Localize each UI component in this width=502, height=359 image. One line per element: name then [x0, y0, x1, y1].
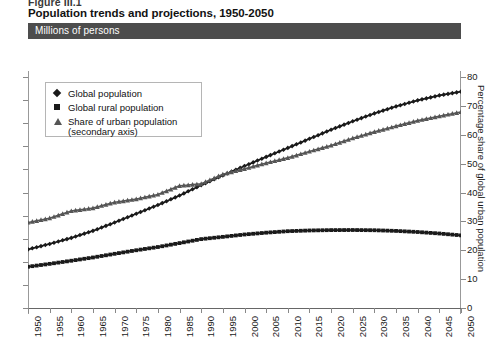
- x-axis-tick-label: 1985: [184, 316, 195, 337]
- x-axis-tick-mark: [180, 308, 181, 313]
- x-axis-tick-label: 2010: [292, 316, 303, 337]
- y-axis-right-tick-mark: [461, 135, 466, 136]
- data-point-marker: [433, 94, 438, 99]
- x-axis-tick-mark: [201, 308, 202, 313]
- data-point-marker: [342, 122, 347, 127]
- x-axis-tick-mark: [136, 308, 137, 313]
- data-point-marker: [260, 231, 264, 235]
- y-axis-right-title: Percentage share of global urban populat…: [476, 85, 487, 305]
- data-point-marker: [87, 256, 91, 260]
- data-point-marker: [329, 228, 333, 232]
- data-point-marker: [264, 155, 269, 160]
- x-axis-tick-mark: [331, 308, 332, 313]
- x-axis-tick-label: 2015: [313, 316, 324, 337]
- data-point-marker: [299, 229, 303, 233]
- data-point-marker: [86, 230, 91, 235]
- x-axis-tick-label: 1950: [32, 316, 43, 337]
- x-axis-tick-label: 1980: [162, 316, 173, 337]
- data-point-marker: [312, 229, 316, 233]
- y-axis-right-tick-mark: [461, 77, 466, 78]
- data-point-marker: [437, 232, 441, 236]
- x-axis-tick-mark: [115, 308, 116, 313]
- data-point-marker: [429, 231, 433, 235]
- data-point-marker: [273, 230, 277, 234]
- data-point-marker: [139, 248, 143, 252]
- data-point-marker: [337, 124, 342, 129]
- x-axis-tick-label: 2020: [335, 316, 346, 337]
- legend-label: Global population: [68, 88, 142, 99]
- data-point-marker: [346, 121, 351, 126]
- y-axis-right-tick-mark: [461, 106, 466, 107]
- y-axis-right-tick-mark: [461, 250, 466, 251]
- data-point-marker: [35, 264, 39, 268]
- data-point-marker: [364, 228, 368, 232]
- series-markers: [28, 228, 461, 269]
- x-axis-tick-mark: [461, 308, 462, 313]
- data-point-marker: [350, 119, 355, 124]
- data-point-marker: [126, 250, 130, 254]
- data-point-marker: [368, 113, 373, 118]
- data-point-marker: [39, 244, 44, 249]
- data-point-marker: [455, 233, 459, 237]
- data-point-marker: [394, 229, 398, 233]
- data-point-marker: [281, 147, 286, 152]
- data-point-marker: [52, 240, 57, 245]
- data-point-marker: [60, 238, 65, 243]
- x-axis-tick-mark: [28, 308, 29, 313]
- data-point-marker: [376, 110, 381, 115]
- data-point-marker: [390, 229, 394, 233]
- data-point-marker: [130, 213, 135, 218]
- data-point-marker: [234, 234, 238, 238]
- data-point-marker: [402, 102, 407, 107]
- data-point-marker: [212, 236, 216, 240]
- data-point-marker: [333, 126, 338, 131]
- data-point-marker: [295, 229, 299, 233]
- data-point-marker: [433, 231, 437, 235]
- data-point-marker: [273, 151, 278, 156]
- data-point-marker: [74, 258, 78, 262]
- data-point-marker: [441, 92, 446, 97]
- data-point-marker: [28, 247, 30, 252]
- data-point-marker: [199, 237, 203, 241]
- data-point-marker: [277, 149, 282, 154]
- data-point-marker: [329, 127, 334, 132]
- data-point-marker: [173, 242, 177, 246]
- triangle-marker-icon: [54, 118, 62, 125]
- data-point-marker: [450, 91, 455, 96]
- data-point-marker: [43, 243, 48, 248]
- data-point-marker: [268, 153, 273, 158]
- x-axis-tick-mark: [245, 308, 246, 313]
- data-point-marker: [403, 229, 407, 233]
- data-point-marker: [56, 261, 60, 265]
- x-axis-tick-label: 2030: [378, 316, 389, 337]
- data-point-marker: [416, 230, 420, 234]
- data-point-marker: [230, 234, 234, 238]
- data-point-marker: [282, 230, 286, 234]
- chart-legend: Global population Global rural populatio…: [45, 82, 202, 137]
- data-point-marker: [117, 218, 122, 223]
- data-point-marker: [134, 248, 138, 252]
- data-point-marker: [298, 140, 303, 145]
- data-point-marker: [286, 146, 291, 151]
- x-axis-tick-label: 1960: [75, 316, 86, 337]
- data-point-marker: [420, 97, 425, 102]
- data-point-marker: [95, 255, 99, 259]
- x-axis-tick-mark: [71, 308, 72, 313]
- data-point-marker: [112, 220, 117, 225]
- data-point-marker: [191, 239, 195, 243]
- data-point-marker: [277, 230, 281, 234]
- data-point-marker: [359, 116, 364, 121]
- data-point-marker: [47, 242, 52, 247]
- data-point-marker: [398, 103, 403, 108]
- data-point-marker: [308, 229, 312, 233]
- data-point-marker: [251, 232, 255, 236]
- data-point-marker: [247, 232, 251, 236]
- square-marker-icon: [54, 104, 60, 110]
- data-point-marker: [320, 131, 325, 136]
- data-point-marker: [121, 250, 125, 254]
- y-axis-right-tick-mark: [461, 279, 466, 280]
- data-point-marker: [424, 96, 429, 101]
- x-axis-tick-label: 1990: [205, 316, 216, 337]
- x-axis-tick-mark: [158, 308, 159, 313]
- data-point-marker: [407, 100, 412, 105]
